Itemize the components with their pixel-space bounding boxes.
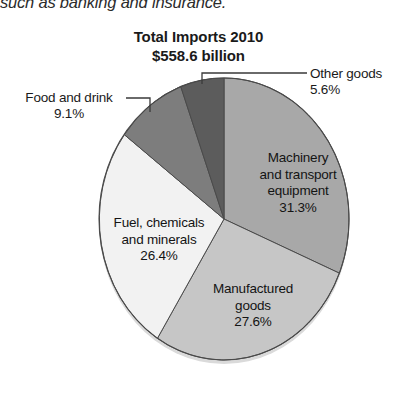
slice-label-manufactured-goods-line2: goods	[185, 298, 321, 315]
slice-callout-other-goods-name: Other goods	[310, 66, 382, 82]
slice-label-fuel-line1: Fuel, chemicals	[92, 215, 226, 232]
slice-label-machinery: Machinery and transport equipment 31.3%	[238, 150, 358, 216]
slice-label-machinery-line2: and transport	[238, 167, 358, 184]
slice-callout-other-goods: Other goods 5.6%	[310, 66, 382, 98]
slice-label-fuel-line2: and minerals	[92, 232, 226, 249]
slice-label-fuel-percent: 26.4%	[92, 248, 226, 265]
slice-label-manufactured-goods-line1: Manufactured	[185, 281, 321, 298]
slice-callout-food-and-drink-percent: 9.1%	[8, 106, 130, 122]
slice-label-machinery-line3: equipment	[238, 183, 358, 200]
slice-callout-food-and-drink: Food and drink 9.1%	[8, 90, 130, 122]
slice-label-machinery-percent: 31.3%	[238, 200, 358, 217]
slice-label-fuel-chemicals-minerals: Fuel, chemicals and minerals 26.4%	[92, 215, 226, 265]
slice-label-manufactured-goods-percent: 27.6%	[185, 314, 321, 331]
slice-label-manufactured-goods: Manufactured goods 27.6%	[185, 281, 321, 331]
slice-callout-other-goods-percent: 5.6%	[310, 82, 382, 98]
slice-callout-food-and-drink-name: Food and drink	[8, 90, 130, 106]
slice-label-machinery-line1: Machinery	[238, 150, 358, 167]
